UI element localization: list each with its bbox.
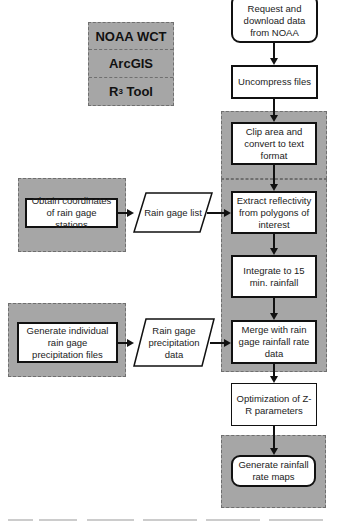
- node-label: Rain gage list: [143, 192, 203, 233]
- node-label: Optimization of Z-R parameters: [235, 393, 313, 417]
- node-optimization: Optimization of Z-R parameters: [231, 383, 317, 426]
- node-label: Clip area and convert to text format: [236, 126, 312, 162]
- node-merge: Merge with rain gage rainfall rate data: [231, 320, 317, 364]
- node-extract-reflectivity: Extract reflectivity from polygons of in…: [231, 191, 317, 234]
- node-label: Generate rainfall rate maps: [236, 459, 311, 483]
- figure-caption-cutoff: [8, 515, 323, 521]
- node-label: Integrate to 15 min. rainfall: [236, 265, 312, 289]
- arrow-down-icon: [270, 184, 278, 191]
- edge-request-uncompress: [273, 43, 275, 59]
- arrow-down-icon: [270, 115, 278, 122]
- legend-arcgis: ArcGIS: [89, 50, 173, 77]
- arrow-right-icon: [224, 339, 231, 347]
- node-integrate: Integrate to 15 min. rainfall: [231, 255, 317, 298]
- edge-integrate-merge: [273, 298, 275, 314]
- legend-r3-tool: R3 Tool: [89, 78, 173, 105]
- edge-optimize-generate: [273, 426, 275, 449]
- legend: NOAA WCT ArcGIS R3 Tool: [88, 22, 174, 106]
- node-obtain-coordinates: Obtain coordinates of rain gage stations: [25, 198, 118, 228]
- node-rain-gage-list: Rain gage list: [133, 192, 213, 233]
- node-rain-gage-precip: Rain gage precipitation data: [133, 318, 215, 367]
- node-generate-maps: Generate rainfall rate maps: [231, 455, 316, 487]
- arrow-right-icon: [224, 209, 231, 217]
- arrow-down-icon: [270, 248, 278, 255]
- node-clip-convert: Clip area and convert to text format: [231, 122, 317, 165]
- arrow-down-icon: [270, 376, 278, 383]
- arrow-down-icon: [270, 448, 278, 455]
- node-label: Rain gage precipitation data: [143, 318, 205, 367]
- node-label: Extract reflectivity from polygons of in…: [236, 195, 312, 231]
- edge-uncompress-clip: [273, 99, 275, 116]
- node-label: Request and download data from NOAA: [236, 3, 313, 39]
- edge-clip-extract: [273, 165, 275, 185]
- arrow-down-icon: [270, 58, 278, 65]
- node-label: Obtain coordinates of rain gage stations: [30, 195, 113, 231]
- legend-r3-letter: R: [109, 84, 118, 99]
- node-request-download: Request and download data from NOAA: [231, 0, 318, 43]
- node-label: Merge with rain gage rainfall rate data: [236, 324, 312, 360]
- node-generate-individual: Generate individual rain gage precipitat…: [17, 322, 118, 363]
- legend-r3-suffix: Tool: [123, 84, 153, 99]
- legend-noaa-wct: NOAA WCT: [89, 23, 173, 50]
- node-label: Uncompress files: [238, 76, 311, 88]
- edge-extract-integrate: [273, 234, 275, 249]
- node-uncompress: Uncompress files: [231, 65, 318, 99]
- arrow-down-icon: [270, 313, 278, 320]
- node-label: Generate individual rain gage precipitat…: [22, 325, 113, 361]
